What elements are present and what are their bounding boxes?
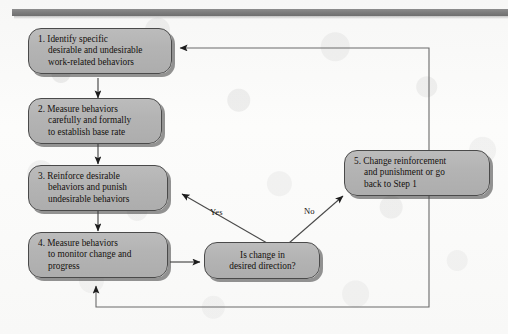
figure-canvas: 1. Identify specific desirable and undes… (0, 0, 508, 334)
edge-label-no: No (304, 206, 315, 216)
step-4-line-1: 4. Measure behaviors (38, 238, 159, 249)
step-5-change-reinforcement[interactable]: 5. Change reinforcement and punishment o… (344, 150, 490, 196)
step-1-line-3: work-related behaviors (38, 57, 163, 68)
step-3-reinforce[interactable]: 3. Reinforce desirable behaviors and pun… (28, 165, 168, 211)
decision-line-1: Is change in (214, 250, 311, 261)
step-4-line-2: to monitor change and (38, 249, 159, 260)
edge-decision-step5-no (289, 196, 343, 243)
edge-decision-step3-yes (182, 194, 267, 243)
step-3-line-3: undesirable behaviors (38, 194, 159, 205)
step-5-line-3: back to Step 1 (354, 179, 481, 190)
step-1-identify[interactable]: 1. Identify specific desirable and undes… (28, 28, 172, 74)
step-2-measure-baseline[interactable]: 2. Measure behaviors carefully and forma… (28, 98, 162, 144)
step-3-line-2: behaviors and punish (38, 182, 159, 193)
step-2-line-1: 2. Measure behaviors (38, 104, 153, 115)
step-2-line-2: carefully and formally (38, 115, 153, 126)
decision-line-2: desired direction? (214, 261, 311, 272)
step-4-line-3: progress (38, 261, 159, 272)
edge-label-yes: Yes (210, 207, 223, 217)
step-4-monitor[interactable]: 4. Measure behaviors to monitor change a… (28, 232, 168, 278)
step-3-line-1: 3. Reinforce desirable (38, 171, 159, 182)
edge-step5-step1-loop (180, 48, 429, 160)
decision-is-change-desired[interactable]: Is change in desired direction? (204, 242, 320, 279)
step-5-line-2: and punishment or go (354, 167, 481, 178)
step-5-line-1: 5. Change reinforcement (354, 156, 481, 167)
step-1-line-2: desirable and undesirable (38, 45, 163, 56)
step-1-line-1: 1. Identify specific (38, 34, 163, 45)
step-2-line-3: to establish base rate (38, 127, 153, 138)
